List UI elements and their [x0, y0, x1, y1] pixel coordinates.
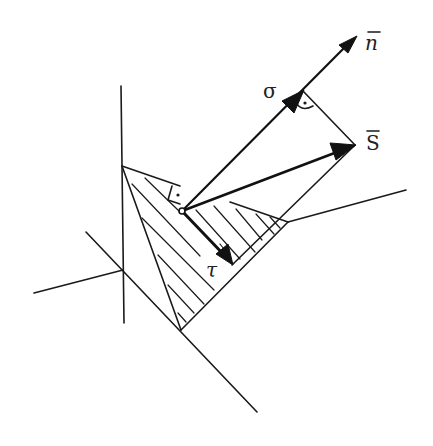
shear-vector-tau [182, 211, 226, 257]
sigma-arrowhead-icon [282, 90, 304, 113]
sigma-projection-line [303, 91, 355, 145]
stress-diagram: n S σ τ [0, 0, 433, 446]
label-sigma: σ [263, 79, 277, 103]
stress-vector-S [182, 149, 345, 211]
hatched-cut-surface [132, 178, 280, 322]
point-p [179, 208, 185, 214]
plane-edge-bottom [181, 222, 288, 330]
hatch-line [158, 255, 204, 304]
axis-left [34, 270, 123, 293]
axis-right [288, 190, 406, 222]
right-angle-marker-p [168, 186, 180, 204]
axis-vertical [121, 86, 124, 323]
right-angle-dot [176, 193, 179, 196]
labels: n S σ τ [206, 31, 380, 282]
hatch-line [178, 313, 186, 322]
right-angle-dot [303, 101, 306, 104]
normal-vector-n [182, 42, 350, 211]
label-n: n [365, 31, 378, 55]
label-tau: τ [206, 258, 218, 282]
label-s: S [366, 131, 380, 155]
hatch-line [142, 218, 214, 290]
hatch-line [145, 178, 180, 212]
